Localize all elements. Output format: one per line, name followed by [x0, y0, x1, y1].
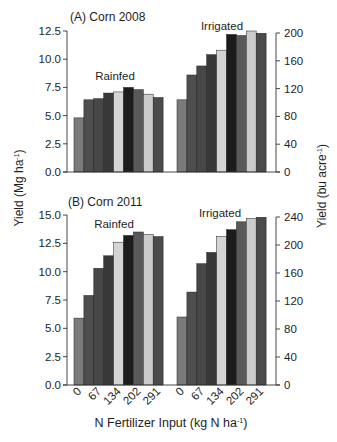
left-y-tick-label: 0.0 — [45, 379, 61, 391]
left-y-tick-label: 12.5 — [39, 237, 61, 249]
bar — [74, 318, 84, 385]
left-y-axis-label-text: Yield (Mg ha — [12, 159, 26, 226]
panel-title: (A) Corn 2008 — [70, 10, 146, 24]
bar — [143, 94, 153, 172]
bar — [187, 292, 197, 385]
right-y-tick-label: 160 — [284, 55, 303, 67]
bar — [236, 222, 246, 385]
bar — [197, 66, 207, 172]
right-y-tick-label: 160 — [284, 267, 303, 279]
right-y-tick-label: 40 — [284, 138, 297, 150]
left-y-tick-label: 2.5 — [45, 351, 61, 363]
panel-title: (B) Corn 2011 — [68, 195, 143, 209]
right-y-axis-label-close: ) — [315, 144, 329, 148]
bar — [187, 75, 197, 172]
bar — [256, 33, 266, 172]
bar — [246, 218, 256, 385]
bar — [153, 98, 163, 172]
bar — [84, 100, 94, 172]
x-axis-label: N Fertilizer Input (kg N ha-1) — [95, 416, 248, 430]
bar — [133, 232, 143, 385]
bar — [133, 90, 143, 172]
bar-group-rainfed — [74, 87, 163, 172]
group-label-irrigated: Irrigated — [199, 207, 241, 219]
bar — [94, 99, 104, 172]
bar — [124, 235, 134, 385]
bar — [256, 217, 266, 385]
left-y-axis-label: Yield (Mg ha-1) — [12, 149, 26, 226]
bar — [246, 31, 256, 172]
bar — [217, 50, 227, 172]
left-y-tick-label: 7.5 — [45, 81, 61, 93]
group-label-rainfed: Rainfed — [94, 218, 134, 230]
bar — [143, 234, 153, 385]
left-y-axis-label-close: ) — [12, 149, 26, 153]
left-y-tick-label: 10.0 — [39, 53, 61, 65]
bar — [104, 93, 114, 172]
bar — [207, 55, 217, 172]
right-y-tick-label: 80 — [284, 110, 297, 122]
right-y-tick-label: 120 — [284, 83, 303, 95]
bar — [104, 256, 114, 385]
bar — [197, 264, 207, 385]
x-axis-label-close: ) — [243, 416, 247, 430]
bar — [124, 87, 134, 172]
bar — [177, 317, 187, 385]
left-y-tick-label: 15.0 — [39, 209, 61, 221]
left-y-tick-label: 7.5 — [45, 294, 61, 306]
bar — [153, 237, 163, 385]
bar — [227, 230, 237, 385]
x-axis-label-text: N Fertilizer Input (kg N ha — [95, 416, 237, 430]
bar — [74, 118, 84, 172]
bar — [84, 295, 94, 385]
group-label-rainfed: Rainfed — [95, 70, 135, 82]
left-y-tick-label: 2.5 — [45, 138, 61, 150]
bar — [114, 242, 124, 385]
bar — [217, 237, 227, 385]
bar — [94, 268, 104, 385]
bar — [207, 252, 217, 385]
right-y-tick-label: 120 — [284, 295, 303, 307]
right-y-tick-label: 40 — [284, 351, 297, 363]
right-y-tick-label: 200 — [284, 27, 303, 39]
yield-bar-chart-figure: Yield (Mg ha-1) Yield (bu acre-1) N Fert… — [0, 0, 337, 442]
right-y-tick-label: 0 — [284, 166, 290, 178]
left-y-tick-label: 5.0 — [45, 322, 61, 334]
bar — [227, 34, 237, 172]
left-y-tick-label: 12.5 — [39, 25, 61, 37]
left-y-tick-label: 10.0 — [39, 266, 61, 278]
right-y-axis-label: Yield (bu acre-1) — [315, 144, 329, 228]
right-y-axis-label-text: Yield (bu acre — [315, 154, 329, 228]
bar — [177, 100, 187, 172]
right-y-tick-label: 200 — [284, 239, 303, 251]
bar — [236, 36, 246, 172]
right-y-tick-label: 80 — [284, 323, 297, 335]
right-y-tick-label: 0 — [284, 379, 290, 391]
right-y-tick-label: 240 — [284, 211, 303, 223]
group-label-irrigated: Irrigated — [201, 20, 243, 32]
left-y-tick-label: 5.0 — [45, 110, 61, 122]
bar — [114, 92, 124, 172]
left-y-tick-label: 0.0 — [45, 166, 61, 178]
